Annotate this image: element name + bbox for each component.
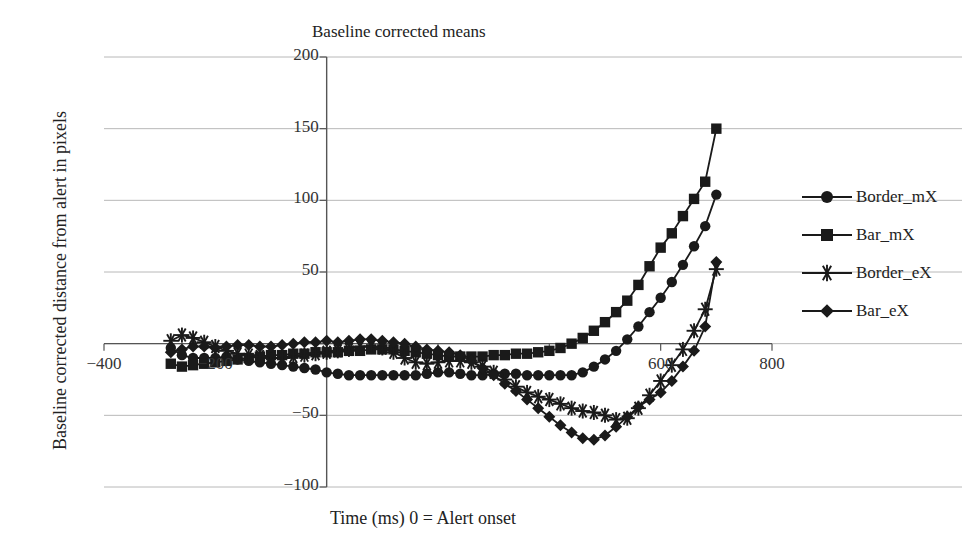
legend-label: Border_mX — [856, 187, 937, 207]
x-tick-label: 600 — [616, 354, 706, 374]
data-point-square — [633, 280, 643, 290]
data-point-circle — [544, 370, 554, 380]
data-point-diamond — [343, 335, 355, 347]
legend-label: Bar_mX — [856, 225, 915, 245]
data-point-square — [500, 350, 510, 360]
y-tick-label: 100 — [241, 188, 319, 208]
data-point-circle — [655, 293, 665, 303]
data-point-circle — [600, 354, 610, 364]
data-point-square — [488, 350, 498, 360]
series-Bar_mX — [166, 123, 722, 371]
data-point-circle — [333, 369, 343, 379]
data-point-circle — [711, 189, 721, 199]
x-axis-title: Time (ms) 0 = Alert onset — [330, 508, 516, 529]
y-tick-label: 150 — [241, 117, 319, 137]
data-point-circle — [522, 370, 532, 380]
data-point-circle — [355, 370, 365, 380]
data-point-circle — [689, 241, 699, 251]
data-point-circle — [366, 370, 376, 380]
data-point-circle — [533, 370, 543, 380]
x-tick-label: 800 — [727, 354, 817, 374]
data-point-square — [644, 261, 654, 271]
data-point-diamond — [287, 338, 299, 350]
data-point-diamond — [321, 335, 333, 347]
data-point-square — [600, 317, 610, 327]
data-point-circle — [310, 364, 320, 374]
data-point-diamond — [310, 336, 322, 348]
data-point-circle — [678, 260, 688, 270]
data-point-circle — [321, 367, 331, 377]
data-point-square — [667, 228, 677, 238]
data-point-circle — [700, 221, 710, 231]
data-point-square — [522, 349, 532, 359]
data-point-diamond — [820, 304, 834, 318]
data-point-circle — [555, 370, 565, 380]
data-point-circle — [589, 361, 599, 371]
data-point-square — [511, 349, 521, 359]
data-point-circle — [377, 370, 387, 380]
data-point-diamond — [577, 432, 589, 444]
data-point-square — [655, 242, 665, 252]
legend-marker-circle-icon — [800, 186, 854, 208]
data-point-circle — [511, 369, 521, 379]
legend-label: Border_eX — [856, 263, 932, 283]
data-point-circle — [622, 334, 632, 344]
data-point-circle — [821, 191, 833, 203]
data-point-diamond — [588, 434, 600, 446]
data-point-circle — [399, 370, 409, 380]
chart-title: Baseline corrected means — [312, 22, 486, 42]
chart-legend: Border_mXBar_mXBorder_eXBar_eX — [800, 178, 975, 330]
data-point-circle — [633, 321, 643, 331]
data-point-square — [611, 307, 621, 317]
legend-item-border_ex: Border_eX — [800, 254, 975, 292]
data-point-circle — [455, 369, 465, 379]
data-point-circle — [444, 367, 454, 377]
data-point-square — [566, 338, 576, 348]
data-point-square — [711, 123, 721, 133]
data-point-circle — [466, 370, 476, 380]
data-point-circle — [667, 277, 677, 287]
chart-container: Baseline corrected means Time (ms) 0 = A… — [0, 0, 979, 544]
data-point-diamond — [232, 339, 244, 351]
y-axis-title: Baseline corrected distance from alert i… — [50, 71, 71, 491]
y-tick-label: 200 — [241, 45, 319, 65]
data-point-diamond — [298, 336, 310, 348]
data-point-square — [821, 229, 833, 241]
data-point-square — [544, 346, 554, 356]
data-point-diamond — [332, 336, 344, 348]
y-tick-label: −50 — [241, 403, 319, 423]
legend-item-border_mx: Border_mX — [800, 178, 975, 216]
data-point-circle — [566, 370, 576, 380]
legend-item-bar_mx: Bar_mX — [800, 216, 975, 254]
data-point-circle — [344, 370, 354, 380]
legend-marker-star-icon — [800, 262, 854, 284]
data-point-circle — [411, 370, 421, 380]
data-point-square — [700, 177, 710, 187]
data-point-circle — [644, 307, 654, 317]
data-point-circle — [578, 367, 588, 377]
data-point-diamond — [276, 339, 288, 351]
data-point-diamond — [710, 256, 722, 268]
data-point-square — [555, 343, 565, 353]
data-point-circle — [299, 363, 309, 373]
data-point-square — [589, 326, 599, 336]
x-tick-label: −400 — [59, 354, 149, 374]
data-point-square — [578, 333, 588, 343]
data-point-circle — [388, 370, 398, 380]
data-point-square — [689, 194, 699, 204]
data-point-square — [678, 211, 688, 221]
legend-label: Bar_eX — [856, 301, 909, 321]
data-point-diamond — [566, 427, 578, 439]
x-tick-label: −200 — [170, 354, 260, 374]
legend-item-bar_ex: Bar_eX — [800, 292, 975, 330]
legend-marker-diamond-icon — [800, 300, 854, 322]
legend-marker-square-icon — [800, 224, 854, 246]
y-tick-label: 50 — [241, 260, 319, 280]
data-point-square — [533, 347, 543, 357]
data-point-square — [622, 295, 632, 305]
y-tick-label: −100 — [241, 475, 319, 495]
